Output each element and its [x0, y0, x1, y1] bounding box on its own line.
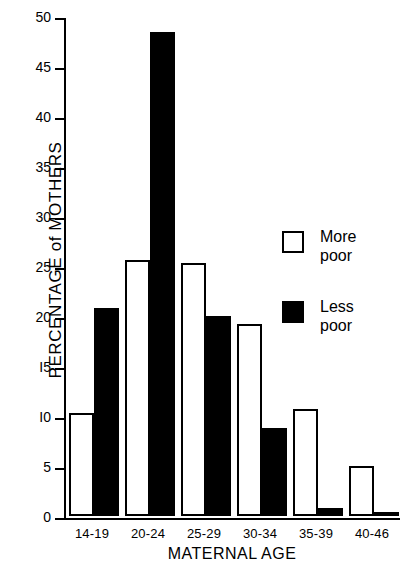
- x-tick-label-35-39: 35-39: [288, 526, 344, 541]
- bar-group-25-29: [181, 16, 231, 516]
- bar-30-34-more-poor: [237, 324, 262, 516]
- bar-group-40-46: [349, 16, 399, 516]
- x-tick-label-20-24: 20-24: [120, 526, 176, 541]
- x-tick-label-14-19: 14-19: [64, 526, 120, 541]
- y-tick-35: 35: [55, 168, 64, 170]
- y-tick-25: 25: [55, 268, 64, 270]
- bar-25-29-more-poor: [181, 263, 206, 516]
- y-tick-10: I0: [55, 418, 64, 420]
- bar-25-29-less-poor: [206, 316, 231, 516]
- y-tick-label-30: 30: [21, 209, 51, 225]
- y-tick-50: 50: [55, 18, 64, 20]
- y-tick-label-40: 40: [21, 109, 51, 125]
- bar-40-46-more-poor: [349, 466, 374, 516]
- bar-20-24-more-poor: [125, 260, 150, 516]
- y-tick-label-50: 50: [21, 9, 51, 25]
- y-tick-label-10: I0: [21, 409, 51, 425]
- bar-group-14-19: [69, 16, 119, 516]
- y-tick-30: 30: [55, 218, 64, 220]
- x-axis-title: MATERNAL AGE: [64, 545, 400, 563]
- bar-group-35-39: [293, 16, 343, 516]
- bar-14-19-more-poor: [69, 413, 94, 516]
- plot-area: 05I0I520253035404550 14-1920-2425-2930-3…: [64, 18, 400, 518]
- y-tick-20: 20: [55, 318, 64, 320]
- x-tick-label-30-34: 30-34: [232, 526, 288, 541]
- legend-label-less-poor: Less poor: [320, 297, 354, 335]
- bar-30-34-less-poor: [262, 428, 287, 516]
- y-tick-40: 40: [55, 118, 64, 120]
- y-tick-label-35: 35: [21, 159, 51, 175]
- y-tick-15: I5: [55, 368, 64, 370]
- y-axis-line: [64, 18, 66, 518]
- bar-20-24-less-poor: [150, 32, 175, 516]
- y-tick-label-20: 20: [21, 309, 51, 325]
- bar-35-39-less-poor: [318, 508, 343, 516]
- bar-14-19-less-poor: [94, 308, 119, 516]
- x-tick-label-25-29: 25-29: [176, 526, 232, 541]
- y-tick-label-5: 5: [21, 459, 51, 475]
- y-tick-label-25: 25: [21, 259, 51, 275]
- open-square-icon: [282, 231, 304, 253]
- x-axis-line: [64, 518, 400, 520]
- y-tick-label-0: 0: [21, 509, 51, 525]
- y-tick-label-45: 45: [21, 59, 51, 75]
- legend-label-more-poor: More poor: [320, 227, 356, 265]
- bar-group-30-34: [237, 16, 287, 516]
- bar-40-46-less-poor: [374, 512, 399, 516]
- y-tick-0: 0: [55, 518, 64, 520]
- bar-group-20-24: [125, 16, 175, 516]
- bar-chart: PERCENTAGE of MOTHERS 05I0I5202530354045…: [0, 0, 409, 583]
- bar-35-39-more-poor: [293, 409, 318, 516]
- y-tick-5: 5: [55, 468, 64, 470]
- x-tick-label-40-46: 40-46: [344, 526, 400, 541]
- filled-square-icon: [282, 301, 304, 323]
- y-tick-45: 45: [55, 68, 64, 70]
- y-tick-label-15: I5: [21, 359, 51, 375]
